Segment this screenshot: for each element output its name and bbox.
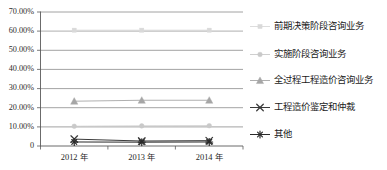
legend-item-label: 前期决策阶段咨询业务 xyxy=(274,20,364,31)
y-tick-label: 30.00% xyxy=(9,83,34,92)
square-marker xyxy=(258,24,262,28)
legend-item-label: 工程造价鉴定和仲裁 xyxy=(274,101,355,112)
y-tick-label: 10.00% xyxy=(9,122,34,131)
y-tick-label: 40.00% xyxy=(9,64,34,73)
square-marker xyxy=(72,28,76,32)
asterisk-marker xyxy=(257,131,264,138)
line-chart: 70.00% 60.00% 50.00% 40.00% 30.00% 20.00… xyxy=(0,0,387,170)
legend-item-label: 实施阶段咨询业务 xyxy=(274,48,346,59)
circle-marker xyxy=(72,124,77,129)
y-tick-label: 0 xyxy=(30,141,34,150)
x-tick-label: 2012 年 xyxy=(61,152,88,162)
square-marker xyxy=(207,28,211,32)
x-tick-label: 2014 年 xyxy=(196,152,223,162)
y-tick-label: 20.00% xyxy=(9,103,34,112)
asterisk-marker xyxy=(71,139,78,146)
square-marker xyxy=(140,28,144,32)
y-tick-label: 50.00% xyxy=(9,45,34,54)
circle-marker xyxy=(207,123,212,128)
x-tick-label: 2013 年 xyxy=(128,152,155,162)
circle-marker xyxy=(139,124,144,129)
y-tick-label: 60.00% xyxy=(9,26,34,35)
legend-item-label: 其他 xyxy=(274,128,293,139)
y-tick-label: 70.00% xyxy=(9,7,34,16)
x-axis-labels: 2012 年 2013 年 2014 年 xyxy=(61,152,223,162)
chart-container: 70.00% 60.00% 50.00% 40.00% 30.00% 20.00… xyxy=(0,0,387,170)
circle-marker xyxy=(258,52,263,57)
asterisk-marker xyxy=(138,139,145,146)
asterisk-marker xyxy=(206,139,213,146)
legend-item-label: 全过程工程造价咨询业务 xyxy=(274,74,373,85)
